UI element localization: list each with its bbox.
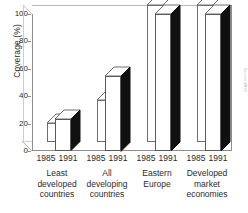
- y-tick-mark: [28, 69, 31, 70]
- x-axis-year-labels: 19851991: [172, 153, 242, 164]
- x-axis-category-label: Developedmarketeconomies: [172, 168, 242, 200]
- x-axis-category-line: economies: [172, 189, 242, 200]
- y-tick-label: 20: [8, 120, 28, 128]
- x-axis-year-1991: 1991: [209, 153, 228, 164]
- y-tick-mark: [28, 96, 31, 97]
- x-axis-year-1985: 1985: [137, 153, 156, 164]
- y-tick-label: 60: [8, 65, 28, 73]
- x-axis-year-1985: 1985: [187, 153, 206, 164]
- bar-1991-1: [55, 119, 71, 151]
- plot-area: [32, 14, 232, 151]
- bar-chart: Coverage (%) 020406080100 19851991Leastd…: [0, 0, 248, 213]
- x-axis-category-line: countries: [72, 189, 142, 200]
- bar-1991-3: [155, 14, 171, 151]
- bar-front-face: [205, 14, 221, 151]
- y-tick-label: 40: [8, 92, 28, 100]
- source-credit: Source: WHO: [243, 68, 247, 92]
- x-axis-category-line: Developed: [172, 168, 242, 179]
- x-axis-category-line: market: [172, 179, 242, 190]
- x-axis-year-1985: 1985: [37, 153, 56, 164]
- x-axis-group: 19851991Developedmarketeconomies: [172, 153, 242, 200]
- bar-front-face: [155, 14, 171, 151]
- bar-side-face: [171, 14, 181, 152]
- y-tick-mark: [28, 41, 31, 42]
- bar-side-face: [121, 76, 131, 152]
- bar-side-face: [221, 14, 231, 152]
- bar-1991-4: [205, 14, 221, 151]
- bar-side-face: [71, 119, 81, 152]
- frame-right-edge: [231, 5, 232, 151]
- y-tick-label: 80: [8, 37, 28, 45]
- y-tick-mark: [28, 124, 31, 125]
- x-axis-year-1985: 1985: [87, 153, 106, 164]
- bar-1991-2: [105, 76, 121, 151]
- frame-back-edge: [23, 5, 24, 142]
- bar-front-face: [55, 119, 71, 151]
- bar-front-face: [105, 76, 121, 151]
- x-axis-labels: 19851991Leastdevelopedcountries19851991A…: [32, 153, 232, 213]
